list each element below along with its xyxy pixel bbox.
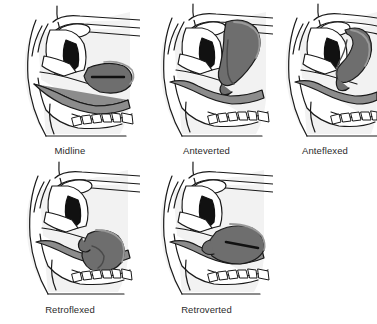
panel-anteflexed: Anteflexed: [273, 0, 377, 160]
illustration-retroverted: [140, 160, 273, 300]
panel-label-anteverted: Anteverted: [183, 145, 230, 156]
uterine-positions-figure: Midline: [0, 0, 377, 324]
panel-anteverted: Anteverted: [140, 0, 273, 160]
illustration-anteverted: [140, 0, 273, 142]
panel-retroflexed: Retroflexed: [0, 160, 140, 324]
panel-label-retroflexed: Retroflexed: [45, 304, 95, 315]
panel-label-retroverted: Retroverted: [181, 304, 232, 315]
illustration-midline: [0, 0, 140, 142]
panel-midline: Midline: [0, 0, 140, 160]
illustration-retroflexed: [0, 160, 140, 300]
panel-retroverted: Retroverted: [140, 160, 273, 324]
panel-empty-slot: [273, 160, 377, 324]
panel-label-anteflexed: Anteflexed: [302, 145, 348, 156]
illustration-anteflexed: [273, 0, 377, 142]
panel-label-midline: Midline: [55, 145, 86, 156]
